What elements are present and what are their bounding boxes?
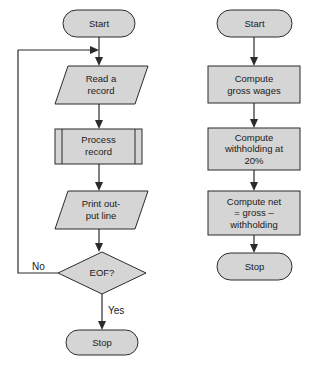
connector-left-eof-no-branch: No xyxy=(18,50,58,273)
node-left-print-output-label-line2: put line xyxy=(86,210,117,221)
connector-left-eof-yes-branch: Yes xyxy=(98,294,124,330)
node-left-read-record-label-line2: record xyxy=(88,85,115,96)
node-left-process-record-label-line1: Process xyxy=(81,134,116,145)
flowchart-canvas: Start Read a record Process xyxy=(0,0,324,369)
node-left-print-output: Print out- put line xyxy=(55,191,148,229)
node-right-compute-net: Compute net = gross – withholding xyxy=(208,191,300,235)
node-right-compute-net-label-line2: = gross – xyxy=(234,207,274,218)
node-right-start-label: Start xyxy=(244,18,264,29)
node-left-eof-decision-label: EOF? xyxy=(90,267,115,278)
node-right-compute-withholding-label-line3: 20% xyxy=(244,155,264,166)
connector-left-process-to-print xyxy=(95,164,103,191)
node-left-start: Start xyxy=(63,10,135,37)
branch-label-yes: Yes xyxy=(108,305,124,316)
node-right-stop: Stop xyxy=(217,253,292,280)
connector-right-start-to-gross xyxy=(250,37,258,66)
connector-left-read-to-process xyxy=(95,104,103,129)
node-left-read-record-label-line1: Read a xyxy=(86,73,117,84)
node-left-stop: Stop xyxy=(66,330,138,355)
node-right-compute-gross-wages-label-line1: Compute xyxy=(235,73,274,84)
node-right-compute-withholding-label-line1: Compute xyxy=(235,132,274,143)
connector-right-withholding-to-net xyxy=(250,170,258,191)
connector-right-gross-to-withholding xyxy=(250,103,258,128)
connector-left-loopback-entry xyxy=(18,46,99,54)
connector-left-print-to-eof xyxy=(95,229,103,252)
connector-right-net-to-stop xyxy=(250,235,258,253)
node-right-compute-gross-wages-label-line2: gross wages xyxy=(227,85,281,96)
node-left-start-label: Start xyxy=(89,18,109,29)
node-left-process-record: Process record xyxy=(55,129,142,164)
node-left-eof-decision: EOF? xyxy=(58,252,146,294)
node-right-compute-withholding: Compute withholding at 20% xyxy=(208,128,300,170)
node-right-compute-gross-wages: Compute gross wages xyxy=(208,66,300,103)
branch-label-no: No xyxy=(32,261,45,272)
node-right-compute-withholding-label-line2: withholding at xyxy=(224,143,283,154)
node-right-compute-net-label-line3: withholding xyxy=(229,219,278,230)
node-left-print-output-label-line1: Print out- xyxy=(82,198,121,209)
node-left-process-record-label-line2: record xyxy=(85,146,112,157)
node-left-stop-label: Stop xyxy=(92,337,112,348)
node-right-start: Start xyxy=(217,10,292,37)
node-left-read-record: Read a record xyxy=(55,66,148,104)
node-right-stop-label: Stop xyxy=(245,261,265,272)
connector-left-start-to-read xyxy=(95,37,103,66)
node-right-compute-net-label-line1: Compute net xyxy=(227,196,282,207)
